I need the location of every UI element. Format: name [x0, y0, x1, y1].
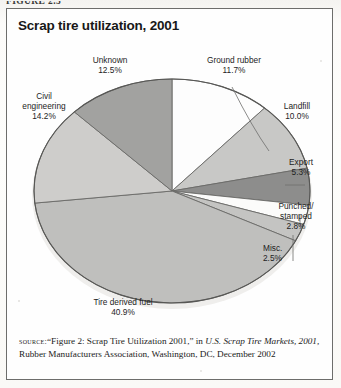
pie-label-unknown-name: Unknown	[93, 55, 128, 65]
pie-label-punched-stamped-name-2: stamped	[265, 211, 327, 221]
scan-artifact	[320, 60, 322, 62]
pie-label-punched-stamped: Punched/ stamped 2.8%	[265, 201, 327, 232]
pie-label-civil-engineering-name-2: engineering	[13, 101, 75, 111]
pie-label-unknown: Unknown 12.5%	[79, 55, 141, 75]
pie-label-civil-engineering: Civil engineering 14.2%	[13, 91, 75, 122]
pie-label-punched-stamped-value: 2.8%	[265, 221, 327, 231]
pie-label-ground-rubber-value: 11.7%	[195, 65, 273, 75]
scan-artifact	[18, 300, 20, 302]
pie-label-export: Export 5.3%	[275, 157, 327, 177]
source-keyword: source:	[19, 337, 47, 346]
source-text-part1: “Figure 2: Scrap Tire Utilization 2001,”…	[47, 336, 205, 346]
pie-label-export-name: Export	[289, 157, 313, 167]
scan-artifact	[200, 370, 202, 372]
pie-label-landfill-value: 10.0%	[269, 111, 325, 121]
pie-label-unknown-value: 12.5%	[79, 65, 141, 75]
pie-label-tire-derived-fuel-name: Tire derived fuel	[93, 297, 152, 307]
pie-label-tire-derived-fuel: Tire derived fuel 40.9%	[73, 297, 173, 317]
source-publication-title: U.S. Scrap Tire Markets, 2001,	[205, 336, 319, 346]
pie-label-civil-engineering-name-1: Civil	[36, 91, 52, 101]
pie-label-tire-derived-fuel-value: 40.9%	[73, 307, 173, 317]
pie-label-misc-value: 2.5%	[263, 253, 315, 263]
pie-label-punched-stamped-name-1: Punched/	[278, 201, 313, 211]
pie-label-misc: Misc. 2.5%	[263, 243, 315, 263]
pie-label-landfill-name: Landfill	[284, 101, 310, 111]
pie-label-civil-engineering-value: 14.2%	[13, 111, 75, 121]
pie-label-ground-rubber-name: Ground rubber	[207, 55, 261, 65]
figure-number-label: FIGURE 2.5	[6, 0, 61, 6]
source-text-part2: Rubber Manufacturers Association, Washin…	[19, 349, 276, 359]
pie-label-misc-name: Misc.	[263, 243, 282, 253]
pie-label-export-value: 5.3%	[275, 167, 327, 177]
figure-frame: Scrap tire utilization, 2001	[6, 8, 333, 380]
pie-label-landfill: Landfill 10.0%	[269, 101, 325, 121]
source-note: source:“Figure 2: Scrap Tire Utilization…	[19, 335, 322, 361]
pie-label-ground-rubber: Ground rubber 11.7%	[195, 55, 273, 75]
scanned-page: FIGURE 2.5 Scrap tire utilization, 2001	[0, 0, 341, 388]
